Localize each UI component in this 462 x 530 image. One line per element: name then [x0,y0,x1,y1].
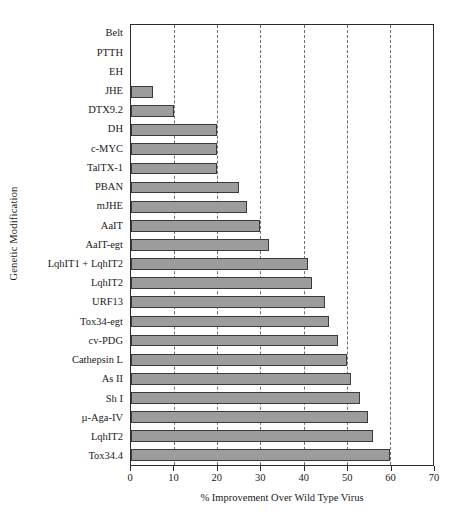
bar[interactable] [131,182,239,194]
bar[interactable] [131,220,260,232]
bar-row [131,25,433,44]
bar[interactable] [131,163,217,175]
bar[interactable] [131,143,217,155]
bar-row [131,331,433,350]
bar[interactable] [131,105,174,117]
bar-chart: Genetic Modification BeltPTTHEHJHEDTX9.2… [0,0,462,530]
x-axis-tick [217,466,218,471]
category-label: AaIT-egt [24,235,128,254]
category-label: cv-PDG [24,332,128,351]
bar-row [131,82,433,101]
x-axis-tick [434,466,435,471]
x-axis-tick-label: 50 [342,472,353,483]
x-axis-tick-label: 0 [127,472,132,483]
category-label: Sh I [24,389,128,408]
x-axis-tick-label: 60 [385,472,396,483]
bar-row [131,235,433,254]
bar-row [131,216,433,235]
bar-row [131,350,433,369]
category-label: µ-Aga-IV [24,408,128,427]
category-label: Cathepsin L [24,351,128,370]
bar-row [131,140,433,159]
category-label: Tox34.4 [24,447,128,466]
x-axis-tick [130,466,131,471]
y-axis-title-text: Genetic Modification [8,186,19,280]
category-label: DTX9.2 [24,101,128,120]
bar-row [131,408,433,427]
bar[interactable] [131,239,269,251]
bar[interactable] [131,124,217,136]
bar-row [131,427,433,446]
bar-row [131,293,433,312]
category-label: AaIT [24,216,128,235]
category-label: TalTX-1 [24,159,128,178]
bar[interactable] [131,201,247,213]
category-label: PTTH [24,43,128,62]
bars-layer [131,25,433,465]
bar[interactable] [131,277,312,289]
x-axis-tick [391,466,392,471]
category-label: mJHE [24,197,128,216]
bar[interactable] [131,430,373,442]
category-label: LqhIT2 [24,274,128,293]
x-axis-tick [304,466,305,471]
category-label: EH [24,62,128,81]
category-label: c-MYC [24,139,128,158]
x-axis-tick [173,466,174,471]
bar-row [131,255,433,274]
bar-row [131,102,433,121]
bar[interactable] [131,258,308,270]
bar-row [131,178,433,197]
category-label: Belt [24,24,128,43]
x-axis-tick-label: 10 [168,472,179,483]
category-label: PBAN [24,178,128,197]
bar[interactable] [131,411,368,423]
bar-row [131,121,433,140]
bar[interactable] [131,373,351,385]
category-label: LqhIT1 + LqhIT2 [24,255,128,274]
bar-row [131,197,433,216]
bar[interactable] [131,392,360,404]
bar[interactable] [131,449,390,461]
category-label: JHE [24,82,128,101]
x-axis-tick [347,466,348,471]
category-label: Tox34-egt [24,312,128,331]
category-label: URF13 [24,293,128,312]
bar-row [131,312,433,331]
category-label: As II [24,370,128,389]
x-axis-tick-label: 20 [212,472,223,483]
bar[interactable] [131,296,325,308]
x-axis-tick-label: 70 [429,472,440,483]
bar-row [131,446,433,465]
bar-row [131,388,433,407]
x-axis-tick-labels: 010203040506070 [130,472,434,488]
category-label: DH [24,120,128,139]
bar[interactable] [131,316,329,328]
bar-row [131,63,433,82]
bar-row [131,274,433,293]
plot-area [130,24,434,466]
bar-row [131,369,433,388]
bar[interactable] [131,335,338,347]
x-axis-tick-label: 30 [255,472,266,483]
bar-row [131,44,433,63]
bar[interactable] [131,354,347,366]
bar[interactable] [131,86,153,98]
category-axis-labels: BeltPTTHEHJHEDTX9.2DHc-MYCTalTX-1PBANmJH… [24,24,128,466]
x-axis-tick-label: 40 [298,472,309,483]
x-axis-title: % Improvement Over Wild Type Virus [130,492,434,503]
bar-row [131,159,433,178]
category-label: LqhIT2 [24,428,128,447]
y-axis-title: Genetic Modification [0,0,26,466]
x-axis-tick [260,466,261,471]
